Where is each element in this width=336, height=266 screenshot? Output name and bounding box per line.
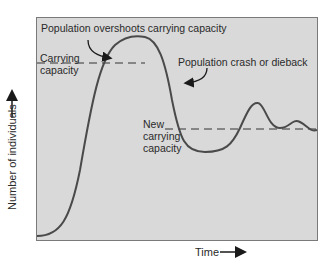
crash-label: Population crash or dieback xyxy=(178,56,308,68)
x-axis-label: Time xyxy=(195,246,219,258)
new-carrying-capacity-line2: carrying xyxy=(143,130,180,142)
overshoot-label: Population overshoots carrying capacity xyxy=(41,22,227,34)
x-axis-label-text: Time xyxy=(195,246,219,258)
crash-arrow xyxy=(186,68,207,83)
carrying-capacity-label-line1: Carrying xyxy=(40,52,80,64)
carrying-capacity-label-line2: capacity xyxy=(40,64,79,76)
y-axis-label: Number of individuals xyxy=(6,104,18,210)
y-axis-label-text: Number of individuals xyxy=(6,104,18,210)
new-carrying-capacity-line1: New xyxy=(143,118,164,130)
new-carrying-capacity-line3: capacity xyxy=(143,142,182,154)
